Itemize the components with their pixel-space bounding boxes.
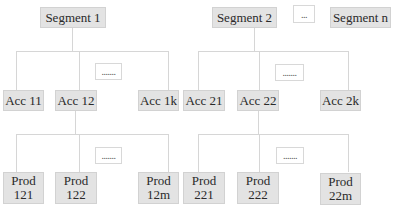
product-node-121: Prod 121 [3,172,44,204]
connector-acc22 [259,51,260,90]
connector-prod221 [198,134,199,172]
product-code: 222 [248,188,268,202]
connector-acc22-vertical [258,110,259,135]
product-node-22m: Prod 22m [320,173,361,205]
segment-n-node: Segment n [330,7,391,28]
connector-prod122 [79,134,80,172]
product-node-221: Prod 221 [183,172,225,204]
segment-1-node: Segment 1 [40,7,106,28]
products-acc12-ellipsis: ....... [95,147,122,164]
product-code: 121 [14,188,34,202]
product-label: Prod [146,174,171,188]
accounts-seg1-ellipsis: ....... [95,63,122,80]
connector-prod121 [16,134,17,172]
connector-prod22m [348,134,349,172]
connector-seg1-vertical [72,27,73,52]
connector-seg1-branch [16,51,169,52]
connector-acc22-branch [198,134,349,135]
product-label: Prod [64,174,89,188]
product-label: Prod [328,175,353,189]
account-node-acc22: Acc 22 [237,90,279,111]
products-acc22-ellipsis: ....... [276,147,304,164]
connector-acc21 [198,51,199,90]
connector-acc12-branch [16,134,169,135]
product-code: 221 [194,188,214,202]
product-code: 22m [329,189,352,203]
product-label: Prod [11,174,36,188]
product-node-122: Prod 122 [55,172,97,204]
account-node-acc2k: Acc 2k [320,90,361,111]
connector-acc2k [348,51,349,90]
connector-seg2-branch [198,51,349,52]
connector-acc12 [79,51,80,90]
account-node-acc21: Acc 21 [183,90,225,111]
account-node-acc11: Acc 11 [3,90,44,111]
segment-2-node: Segment 2 [212,7,277,28]
product-label: Prod [246,174,271,188]
connector-seg2-vertical [254,27,255,52]
account-node-acc12: Acc 12 [55,90,97,111]
connector-prod222 [259,134,260,172]
account-node-acc1k: Acc 1k [138,90,179,111]
segment-ellipsis-node: ... [293,5,315,23]
connector-acc11 [16,51,17,90]
product-node-12m: Prod 12m [138,172,179,204]
product-label: Prod [192,174,217,188]
connector-acc12-vertical [75,110,76,135]
product-node-222: Prod 222 [237,172,279,204]
product-code: 122 [66,188,86,202]
product-code: 12m [147,188,170,202]
connector-acc1k [168,51,169,90]
connector-prod12m [168,134,169,172]
accounts-seg2-ellipsis: ....... [275,64,304,81]
